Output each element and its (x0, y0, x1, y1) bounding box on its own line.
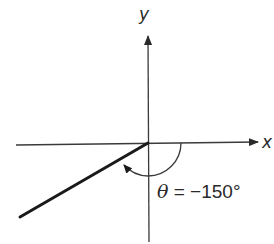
angle-label: θ = −150° (157, 182, 241, 201)
angle-value: −150° (190, 181, 240, 202)
diagram-canvas (0, 0, 274, 244)
theta-symbol: θ (157, 180, 168, 202)
y-axis (148, 36, 149, 242)
terminal-ray (20, 143, 148, 217)
x-axis-label: x (262, 134, 272, 151)
angle-diagram: y x θ = −150° (0, 0, 274, 244)
equals-sign: = (168, 181, 190, 202)
angle-arc (124, 143, 181, 176)
x-axis (16, 142, 258, 145)
y-axis-label: y (139, 6, 149, 23)
